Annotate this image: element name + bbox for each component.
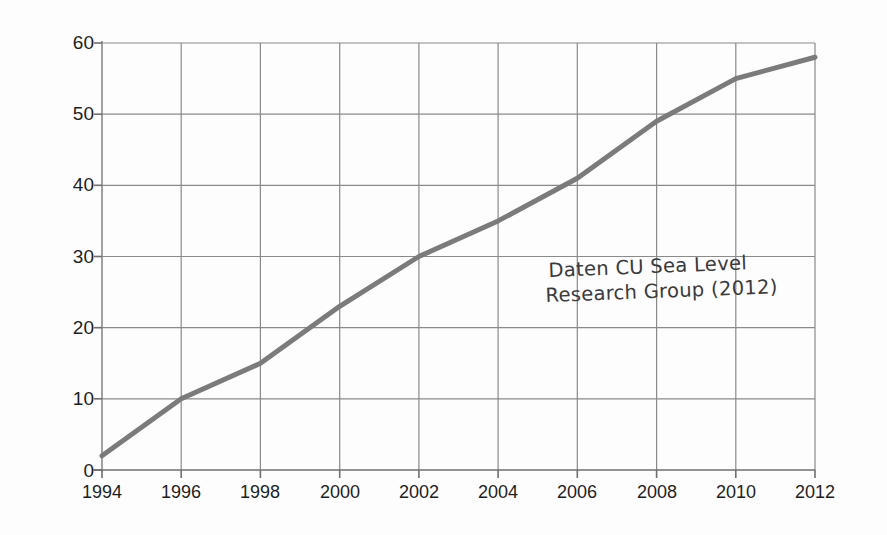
x-tick-label: 2010 xyxy=(696,483,776,501)
x-tick-label: 2008 xyxy=(617,483,697,501)
x-tick-label: 2000 xyxy=(300,483,380,501)
x-tick-label: 2004 xyxy=(458,483,538,501)
x-tick-label: 1996 xyxy=(141,483,221,501)
x-tick-label: 2012 xyxy=(775,483,855,501)
x-tick-label: 2002 xyxy=(379,483,459,501)
chart-figure: Erhöhung Meeresspiegel in mm 60 50 40 30… xyxy=(0,0,887,535)
x-tick-label: 1994 xyxy=(62,483,142,501)
x-tick-label: 2006 xyxy=(537,483,617,501)
x-tick-label: 1998 xyxy=(220,483,300,501)
